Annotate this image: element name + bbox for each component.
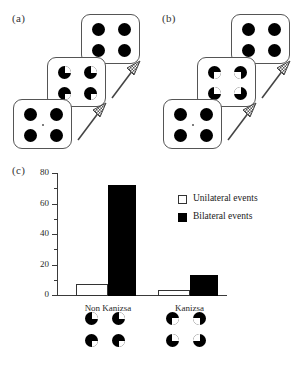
wedge-cut [92,312,99,319]
pacman-inducer-icon [208,66,221,79]
disc-icon [268,23,281,36]
legend-swatch-bilateral-icon [178,213,187,222]
dot-grid [164,100,221,148]
plot-area: 020406080Non KanizsaKanizsa [0,160,300,368]
bar-unilateral-kanizsa[interactable] [158,290,190,296]
pacman-inducer-icon [234,66,247,79]
disc-icon [50,129,63,142]
wedge-cut [92,341,99,348]
bar-bilateral-kanizsa[interactable] [190,275,218,296]
pacman-notch [193,318,200,325]
panel-b-card-bottom-full-discs [163,99,222,149]
pacman-notch [214,72,221,79]
pacman-inducer-icon [193,334,206,347]
dot-grid [82,15,139,63]
disc-icon [242,44,255,57]
disc-icon [242,23,255,36]
y-axis-tick-label: 40 [29,228,49,238]
y-axis-tick-label: 20 [29,259,49,269]
pacman-inducer-icon [193,312,206,325]
disc-icon [118,44,131,57]
panel-label-b: (b) [162,12,176,24]
category-icons-non-kanizsa [82,312,138,352]
pacman-notch [193,334,200,341]
y-axis-line [57,173,58,296]
disc-icon [24,129,37,142]
y-axis-minor-tick [54,280,57,281]
y-axis-tick-label: 80 [29,167,49,177]
panel-a-card-bottom-full-discs [13,99,72,149]
wedge-cut [119,312,126,319]
pacman-inducer-icon [234,87,247,100]
disc-icon [200,129,213,142]
panel-c-bar-chart: (c) 020406080Non KanizsaKanizsa Unilater… [0,160,300,368]
disc-icon [92,44,105,57]
y-axis-minor-tick [54,219,57,220]
y-axis-major-tick [52,234,57,235]
y-axis-major-tick [52,295,57,296]
time-arrow-icon-upper [106,58,146,102]
disc-icon [24,108,37,121]
pacman-notch [234,72,241,79]
dot-grid [14,100,71,148]
pacman-notch [214,87,221,94]
time-arrow-icon-lower [222,100,262,144]
wedge-disc-icon [112,334,125,347]
disc-icon [92,23,105,36]
disc-icon [50,108,63,121]
pacman-notch [172,334,179,341]
disc-icon [268,44,281,57]
wedge-disc-icon [84,87,97,100]
wedge-disc-icon [85,312,98,325]
wedge-disc-icon [84,66,97,79]
wedge-cut [65,66,72,73]
wedge-disc-icon [112,312,125,325]
wedge-cut [91,66,98,73]
bar-bilateral-non-kanizsa[interactable] [108,185,136,296]
wedge-disc-icon [85,334,98,347]
fixation-point-icon [192,124,194,126]
legend-swatch-unilateral-icon [178,195,187,204]
bar-unilateral-non-kanizsa[interactable] [76,284,108,296]
y-axis-tick-label: 60 [29,198,49,208]
y-axis-minor-tick [54,188,57,189]
y-axis-major-tick [52,204,57,205]
disc-icon [200,108,213,121]
y-axis-minor-tick [54,249,57,250]
legend-label-bilateral: Bilateral events [193,211,252,221]
dot-grid [232,15,289,63]
wedge-disc-icon [58,66,71,79]
y-axis-major-tick [52,173,57,174]
disc-icon [174,108,187,121]
time-arrow-icon-lower [72,100,112,144]
pacman-notch [172,318,179,325]
fixation-point-icon [42,124,44,126]
time-arrow-icon-upper [256,58,296,102]
disc-icon [118,23,131,36]
y-axis-tick-label: 0 [29,289,49,299]
pacman-notch [234,87,241,94]
wedge-cut [119,341,126,348]
legend-label-unilateral: Unilateral events [193,193,258,203]
pacman-inducer-icon [166,312,179,325]
y-axis-major-tick [52,265,57,266]
category-icons-kanizsa [163,312,219,352]
disc-icon [174,129,187,142]
panel-label-a: (a) [12,12,25,24]
pacman-inducer-icon [166,334,179,347]
